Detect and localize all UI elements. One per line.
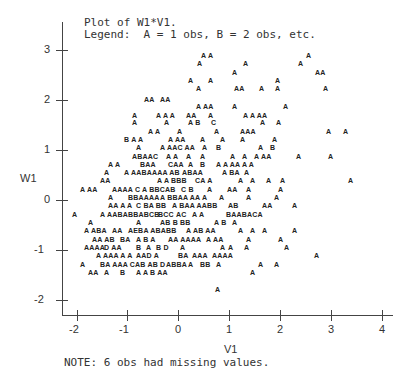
- data-point-glyphs: A AA: [80, 186, 97, 193]
- data-point-glyphs: A: [246, 236, 251, 243]
- data-point-glyphs: A: [238, 227, 243, 234]
- data-point-glyphs: A: [242, 153, 247, 160]
- data-point-glyphs: A: [104, 269, 109, 276]
- data-point-glyphs: A: [275, 85, 280, 92]
- data-point-glyphs: A: [244, 244, 249, 251]
- data-point-glyphs: B A A: [124, 136, 143, 143]
- data-point-glyphs: A: [278, 186, 283, 193]
- y-axis-label: W1: [20, 172, 37, 184]
- y-tick-mark: [56, 150, 68, 151]
- data-point-glyphs: A: [262, 227, 267, 234]
- data-point-glyphs: A: [177, 128, 182, 135]
- data-point-glyphs: D AA: [104, 244, 122, 251]
- data-point-glyphs: A: [343, 128, 348, 135]
- data-point-glyphs: AA: [262, 202, 273, 209]
- data-point-glyphs: AA: [160, 96, 171, 103]
- data-point-glyphs: A: [250, 227, 255, 234]
- data-point-glyphs: A: [298, 60, 303, 67]
- x-tick-label: 2: [277, 323, 283, 335]
- data-point-glyphs: A B: [214, 219, 226, 226]
- data-point-glyphs: AA: [227, 186, 238, 193]
- data-point-glyphs: AA: [186, 112, 197, 119]
- data-point-glyphs: A: [208, 77, 213, 84]
- data-point-glyphs: B: [200, 161, 205, 168]
- data-point-glyphs: A: [72, 211, 77, 218]
- data-point-glyphs: AA: [112, 227, 123, 234]
- data-point-glyphs: A: [136, 144, 141, 151]
- data-point-glyphs: A A: [148, 128, 160, 135]
- data-point-glyphs: AEBA ABABB: [128, 227, 177, 234]
- data-point-glyphs: AAD A: [136, 252, 159, 259]
- data-point-glyphs: A A A: [156, 112, 175, 119]
- data-point-glyphs: AB B: [160, 219, 178, 226]
- data-point-glyphs: BB: [180, 219, 191, 226]
- data-point-glyphs: B: [136, 244, 141, 251]
- data-point-glyphs: A A B AA: [136, 269, 168, 276]
- data-point-glyphs: A: [220, 244, 225, 251]
- data-point-glyphs: BAABACA: [226, 211, 263, 218]
- data-point-glyphs: A: [244, 169, 249, 176]
- x-tick-label: -1: [119, 323, 129, 335]
- data-point-glyphs: A: [258, 144, 263, 151]
- y-tick-mark: [56, 50, 68, 51]
- data-point-glyphs: A A: [108, 161, 120, 168]
- data-point-glyphs: BB: [200, 261, 211, 268]
- data-point-glyphs: A: [274, 261, 279, 268]
- data-point-glyphs: A: [348, 177, 353, 184]
- y-tick-mark: [56, 250, 68, 251]
- data-point-glyphs: A AAC AA: [160, 144, 195, 151]
- data-point-glyphs: A: [246, 186, 251, 193]
- data-point-glyphs: ABAA: [182, 169, 203, 176]
- data-point-glyphs: A: [292, 202, 297, 209]
- data-point-glyphs: BAA: [140, 161, 156, 168]
- x-tick-mark: [331, 310, 332, 321]
- data-point-glyphs: A AA: [254, 153, 271, 160]
- data-point-glyphs: CAA: [168, 161, 184, 168]
- data-point-glyphs: AA AAAA: [168, 236, 201, 243]
- data-point-glyphs: A: [266, 177, 271, 184]
- data-point-glyphs: A: [232, 103, 237, 110]
- data-point-glyphs: ABAAC: [132, 153, 158, 160]
- data-point-glyphs: A: [214, 128, 219, 135]
- data-point-glyphs: AA: [100, 177, 111, 184]
- data-point-glyphs: A: [207, 186, 212, 193]
- data-point-glyphs: B D: [156, 244, 169, 251]
- data-point-glyphs: A: [238, 177, 243, 184]
- data-point-glyphs: A B: [188, 119, 200, 126]
- data-point-glyphs: A: [276, 119, 281, 126]
- data-point-glyphs: C B: [181, 186, 194, 193]
- data-point-glyphs: A: [186, 153, 191, 160]
- data-point-glyphs: A AB AA: [186, 227, 216, 234]
- x-tick-label: -2: [69, 323, 79, 335]
- data-point-glyphs: A: [292, 227, 297, 234]
- data-point-glyphs: ABBA: [166, 261, 187, 268]
- x-tick-mark: [178, 310, 179, 321]
- x-tick-mark: [77, 310, 78, 321]
- data-point-glyphs: A A: [201, 52, 213, 59]
- data-point-glyphs: A: [326, 128, 331, 135]
- data-point-glyphs: A: [243, 60, 248, 67]
- data-point-glyphs: B: [270, 144, 275, 151]
- data-point-glyphs: A AABABBABCB: [100, 211, 159, 218]
- y-tick-mark: [56, 300, 68, 301]
- data-point-glyphs: A: [284, 244, 289, 251]
- data-point-glyphs: A: [197, 60, 202, 67]
- data-point-glyphs: A A BBB: [157, 177, 187, 184]
- data-point-glyphs: AC: [176, 211, 187, 218]
- y-tick-label: 2: [44, 93, 50, 105]
- data-point-glyphs: A: [164, 119, 169, 126]
- data-point-glyphs: A AAA A A: [96, 252, 132, 259]
- data-point-glyphs: A: [196, 85, 201, 92]
- data-point-glyphs: A: [323, 85, 328, 92]
- data-point-glyphs: A: [260, 119, 265, 126]
- data-point-glyphs: A: [202, 194, 207, 201]
- x-axis-label: V1: [224, 343, 237, 355]
- data-point-glyphs: AAA: [192, 252, 208, 259]
- x-tick-mark: [280, 310, 281, 321]
- data-point-glyphs: A AABAAAA AB: [124, 169, 180, 176]
- data-point-glyphs: B: [216, 144, 221, 151]
- data-point-glyphs: A: [180, 244, 185, 251]
- data-point-glyphs: AB: [228, 202, 239, 209]
- y-axis-line: [62, 22, 63, 316]
- data-point-glyphs: A: [104, 169, 109, 176]
